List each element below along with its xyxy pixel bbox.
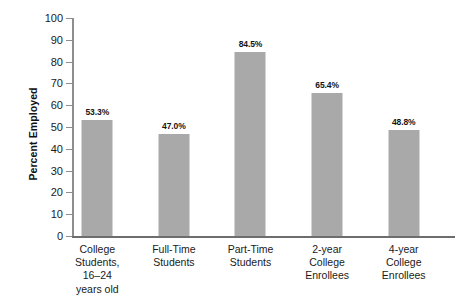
x-category-label-line: Students, [59,256,136,269]
bar [158,134,189,236]
x-category-label-line: 4-year [365,243,442,256]
bar-slot: 53.3% [59,18,136,236]
x-category-label-line: 2-year [289,243,366,256]
bar-value-label: 53.3% [85,107,109,117]
x-category-label-line: Part-Time [212,243,289,256]
bar [312,93,343,236]
x-category-label: Full-TimeStudents [136,243,213,269]
bar-value-label: 84.5% [239,39,263,49]
x-category-label: 4-yearCollegeEnrollees [365,243,442,283]
bar-value-label: 47.0% [162,121,186,131]
bar-chart: Percent Employed 1009080706050403020100 … [0,0,471,308]
x-category-label-line: Enrollees [289,269,366,282]
bar [235,52,266,236]
x-category-label-line: 16–24 [59,269,136,282]
x-axis-line [72,236,455,238]
x-category-label-line: Students [212,256,289,269]
bar-slot: 65.4% [289,18,366,236]
x-category-label-line: College [289,256,366,269]
x-category-label: CollegeStudents,16–24years old [59,243,136,296]
y-tick-mark [66,236,72,237]
bar [82,120,113,236]
bar-slot: 47.0% [136,18,213,236]
x-category-label-line: College [59,243,136,256]
y-axis-title: Percent Employed [27,74,39,194]
bar-value-label: 65.4% [315,80,339,90]
x-category-label: 2-yearCollegeEnrollees [289,243,366,283]
x-category-label: Part-TimeStudents [212,243,289,269]
x-category-label-line: Students [136,256,213,269]
x-category-label-line: Full-Time [136,243,213,256]
bar [388,130,419,236]
bars-layer: 53.3%47.0%84.5%65.4%48.8% [72,18,455,236]
bar-value-label: 48.8% [392,117,416,127]
bar-slot: 48.8% [365,18,442,236]
x-category-label-line: Enrollees [365,269,442,282]
x-category-label-line: College [365,256,442,269]
x-category-label-line: years old [59,283,136,296]
x-axis-category-labels: CollegeStudents,16–24years oldFull-TimeS… [72,243,455,305]
bar-slot: 84.5% [212,18,289,236]
